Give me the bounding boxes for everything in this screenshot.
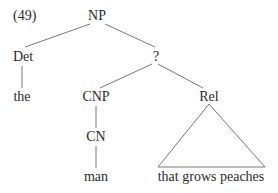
edge-unknown-cnp: [100, 64, 152, 88]
node-cnp: CNP: [82, 89, 109, 105]
edge-np-det: [25, 24, 90, 47]
edge-np-unknown: [105, 24, 155, 47]
edge-unknown-rel: [158, 64, 203, 88]
node-cn: CN: [86, 129, 105, 145]
rel-phrase: that grows peaches: [158, 169, 265, 185]
rel-triangle: [158, 104, 265, 167]
word-man: man: [84, 169, 108, 185]
node-rel: Rel: [199, 89, 218, 105]
node-np: NP: [88, 8, 106, 24]
node-unknown: ?: [153, 49, 159, 65]
tree-edges: [0, 0, 278, 193]
word-the: the: [13, 89, 30, 105]
example-number: (49): [13, 8, 36, 24]
node-det: Det: [13, 49, 33, 65]
